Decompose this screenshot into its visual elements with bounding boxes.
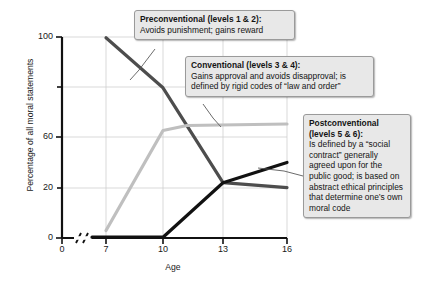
y-tick-label-100: 100	[27, 31, 53, 41]
y-tick-label-60: 60	[27, 131, 53, 141]
x-tick-label-16: 16	[275, 244, 299, 254]
x-tick-label-13: 13	[211, 244, 235, 254]
callout-preconventional-heading: Preconventional (levels 1 & 2):	[140, 14, 289, 25]
callout-preconventional-body: Avoids punishment; gains reward	[140, 25, 289, 36]
callout-preconventional: Preconventional (levels 1 & 2): Avoids p…	[134, 10, 295, 40]
y-tick-label-0: 0	[27, 232, 53, 242]
axis-break-gap	[74, 236, 92, 240]
y-tick-label-20: 20	[27, 182, 53, 192]
callout-postconventional: Postconventional (levels 5 & 6): Is defi…	[303, 114, 411, 218]
x-tick-label-10: 10	[151, 244, 175, 254]
callout-conventional-body: Gains approval and avoids disapproval; i…	[191, 71, 368, 92]
leader-line-preconventional	[130, 49, 155, 80]
x-tick-label-7: 7	[94, 244, 118, 254]
callout-postconventional-body: Is defined by a “social contract” genera…	[309, 139, 405, 213]
callout-conventional-heading: Conventional (levels 3 & 4):	[191, 60, 368, 71]
x-axis-title: Age	[128, 262, 218, 272]
callout-conventional: Conventional (levels 3 & 4): Gains appro…	[185, 56, 374, 97]
callout-postconventional-heading: Postconventional (levels 5 & 6):	[309, 118, 405, 139]
series-postconventional-line	[92, 163, 287, 238]
leader-line-postconventional	[258, 168, 303, 176]
x-tick-label-0: 0	[50, 244, 74, 254]
chart-figure: Percentage of all moral statements 100 6…	[0, 0, 423, 281]
